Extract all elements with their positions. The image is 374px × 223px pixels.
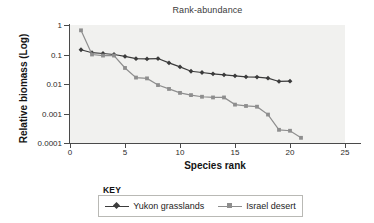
y-axis-line xyxy=(69,24,70,144)
x-tick-label: 0 xyxy=(68,148,72,157)
y-tick-label: 0.001 xyxy=(42,109,62,118)
chart-title: Rank-abundance xyxy=(70,5,345,15)
y-tick-mark xyxy=(64,143,69,144)
y-tick-label: 0.01 xyxy=(46,80,62,89)
y-tick-mark xyxy=(64,84,69,85)
legend-swatch-icon xyxy=(105,201,129,211)
legend-swatch-icon xyxy=(218,201,242,211)
y-tick-mark xyxy=(64,25,69,26)
y-tick-label: 1 xyxy=(58,21,62,30)
legend-label: Yukon grasslands xyxy=(133,201,204,211)
legend-key-label: KEY xyxy=(103,185,121,195)
y-tick-mark xyxy=(64,55,69,56)
x-tick-label: 5 xyxy=(123,148,127,157)
y-tick-label: 0.1 xyxy=(51,50,62,59)
y-tick-mark xyxy=(64,114,69,115)
x-tick-label: 10 xyxy=(176,148,185,157)
x-axis-line xyxy=(69,143,361,144)
x-tick-label: 25 xyxy=(341,148,350,157)
x-axis-title: Species rank xyxy=(70,160,360,171)
y-tick-label: 0.0001 xyxy=(38,139,62,148)
legend-entry-israel-desert[interactable]: Israel desert xyxy=(218,201,296,211)
legend-label: Israel desert xyxy=(246,201,296,211)
x-tick-label: 20 xyxy=(286,148,295,157)
legend-entry-yukon-grasslands[interactable]: Yukon grasslands xyxy=(105,201,204,211)
plot-area xyxy=(70,25,345,143)
x-tick-label: 15 xyxy=(231,148,240,157)
legend-items: Yukon grasslandsIsrael desert xyxy=(98,195,303,217)
rank-abundance-chart: Rank-abundance Relative biomass (Log) 10… xyxy=(0,0,374,223)
y-axis-title: Relative biomass (Log) xyxy=(18,19,29,159)
